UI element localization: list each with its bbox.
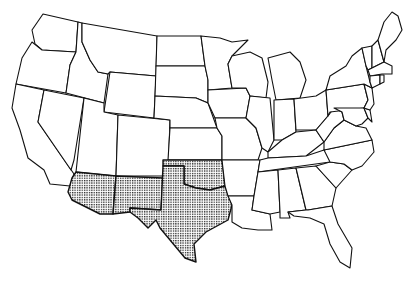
state-rhode-island: Rhode Island: [380, 75, 384, 84]
state-arizona: Arizona: [68, 172, 116, 214]
us-map: WashingtonOregonCaliforniaIdahoNevadaMon…: [0, 0, 415, 284]
state-connecticut: Connecticut: [370, 75, 380, 88]
state-north-dakota: North Dakota: [156, 36, 205, 66]
state-florida: Florida: [288, 206, 352, 268]
state-arkansas: Arkansas: [222, 160, 260, 196]
state-washington: Washington: [32, 14, 78, 52]
state-kansas: Kansas: [168, 128, 222, 160]
states-layer: WashingtonOregonCaliforniaIdahoNevadaMon…: [12, 12, 402, 268]
state-michigan: Michigan: [268, 52, 306, 100]
state-colorado: Colorado: [116, 115, 170, 176]
us-states-outline-map: WashingtonOregonCaliforniaIdahoNevadaMon…: [0, 0, 415, 284]
state-wyoming: Wyoming: [104, 72, 156, 118]
state-iowa: Iowa: [208, 88, 250, 118]
state-maine: Maine: [378, 12, 402, 62]
